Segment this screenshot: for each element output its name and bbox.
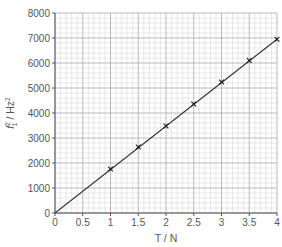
y-tick-label: 5000	[28, 83, 51, 94]
y-tick-label: 2000	[28, 158, 51, 169]
x-axis-title: T / N	[155, 232, 178, 244]
x-tick-label: 0	[52, 217, 58, 228]
y-tick-label: 1000	[28, 183, 51, 194]
y-axis-title-unit: / Hz	[4, 101, 16, 123]
y-tick-label: 8000	[28, 8, 51, 19]
y-tick-label: 3000	[28, 133, 51, 144]
y-tick-label: 7000	[28, 33, 51, 44]
y-axis-title: f21 / Hz2	[4, 97, 18, 129]
x-tick-label: 1	[108, 217, 114, 228]
y-ticks: 010002000300040005000600070008000	[28, 8, 55, 219]
x-ticks: 00.511.522.533.54	[52, 213, 280, 228]
x-tick-label: 0.5	[76, 217, 90, 228]
x-tick-label: 2.5	[187, 217, 201, 228]
x-tick-label: 1.5	[131, 217, 145, 228]
x-tick-label: 4	[274, 217, 280, 228]
chart: 00.511.522.533.54 0100020003000400050006…	[0, 0, 282, 247]
y-tick-label: 4000	[28, 108, 51, 119]
y-tick-label: 0	[44, 208, 50, 219]
x-tick-label: 3	[219, 217, 225, 228]
x-tick-label: 3.5	[242, 217, 256, 228]
y-axis-title-unit-sup: 2	[4, 97, 11, 101]
y-tick-label: 6000	[28, 58, 51, 69]
x-tick-label: 2	[163, 217, 169, 228]
